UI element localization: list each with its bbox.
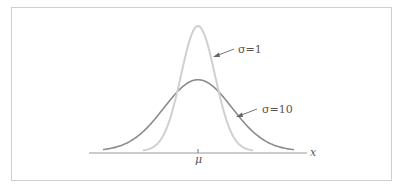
label-mu: μ bbox=[195, 153, 202, 166]
arrow-sigma-1 bbox=[213, 49, 234, 57]
label-sigma-10: σ=10 bbox=[262, 103, 293, 116]
label-x: x bbox=[310, 146, 317, 159]
curve-sigma-1 bbox=[143, 26, 253, 150]
arrow-sigma-10 bbox=[236, 109, 257, 117]
label-sigma-1: σ=1 bbox=[238, 43, 262, 56]
normal-curves-chart: σ=1 σ=10 μ x bbox=[0, 0, 401, 186]
